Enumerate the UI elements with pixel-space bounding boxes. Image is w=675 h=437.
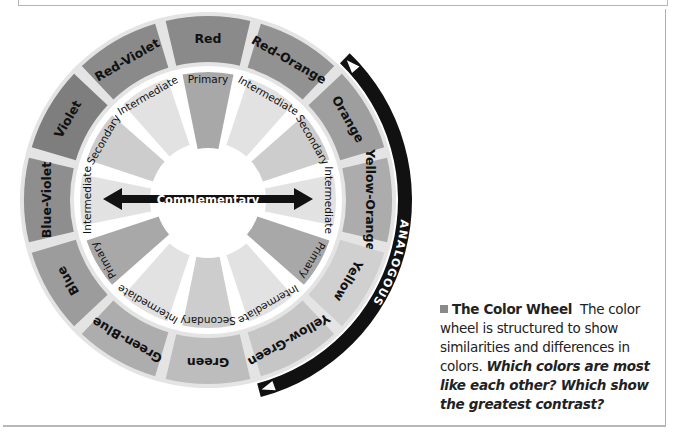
category-label: Primary: [188, 73, 229, 85]
caption-title: The Color Wheel: [452, 301, 572, 317]
segment-label: Green: [187, 355, 229, 370]
segment-label: Red: [194, 31, 221, 46]
figure-caption: The Color Wheel The color wheel is struc…: [440, 300, 658, 414]
segment-label: Blue-Violet: [39, 162, 54, 239]
category-label: Secondary: [180, 315, 236, 327]
segment-label: Yellow-Orange: [363, 148, 378, 251]
complementary-label: Complementary: [157, 193, 260, 207]
caption-bullet-icon: [440, 305, 448, 313]
category-label: Intermediate: [81, 166, 93, 234]
category-label: Intermediate: [323, 166, 335, 234]
